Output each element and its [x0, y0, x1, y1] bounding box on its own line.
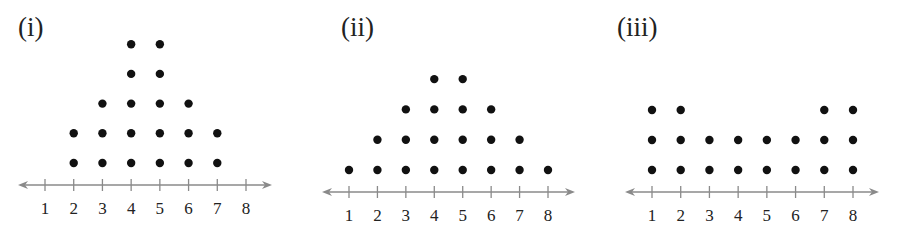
tick-label: 5: [156, 199, 165, 218]
data-dot: [98, 129, 106, 137]
tick-label: 5: [458, 206, 467, 225]
tick-label: 4: [734, 206, 743, 225]
data-dot: [791, 136, 799, 144]
data-dot: [430, 136, 438, 144]
data-dot: [430, 166, 438, 174]
tick-label: 3: [402, 206, 411, 225]
data-dot: [373, 166, 381, 174]
tick-label: 8: [849, 206, 858, 225]
data-dot: [156, 40, 164, 48]
tick-label: 8: [544, 206, 553, 225]
data-dot: [184, 159, 192, 167]
data-dot: [459, 136, 467, 144]
data-dot: [849, 166, 857, 174]
data-dot: [487, 105, 495, 113]
tick-label: 7: [515, 206, 524, 225]
data-dot: [156, 159, 164, 167]
data-dot: [487, 166, 495, 174]
data-dot: [677, 166, 685, 174]
data-dot: [430, 75, 438, 83]
data-dot: [156, 99, 164, 107]
data-dot: [677, 136, 685, 144]
data-dot: [459, 75, 467, 83]
data-dot: [849, 136, 857, 144]
data-dot: [127, 70, 135, 78]
data-dot: [820, 106, 828, 114]
tick-label: 6: [184, 199, 193, 218]
tick-label: 8: [242, 199, 251, 218]
data-dot: [459, 166, 467, 174]
data-dot: [791, 166, 799, 174]
data-dot: [213, 159, 221, 167]
data-dot: [459, 105, 467, 113]
data-dot: [373, 136, 381, 144]
data-dot: [705, 166, 713, 174]
data-dot: [705, 136, 713, 144]
data-dot: [648, 136, 656, 144]
data-dot: [402, 105, 410, 113]
data-dot: [515, 166, 523, 174]
data-dot: [734, 166, 742, 174]
tick-label: 2: [373, 206, 382, 225]
data-dot: [98, 99, 106, 107]
tick-label: 6: [487, 206, 496, 225]
data-dot: [156, 70, 164, 78]
data-dot: [184, 129, 192, 137]
tick-label: 3: [98, 199, 107, 218]
data-dot: [487, 136, 495, 144]
data-dot: [648, 166, 656, 174]
data-dot: [70, 159, 78, 167]
tick-label: 3: [705, 206, 714, 225]
data-dot: [820, 136, 828, 144]
tick-label: 6: [791, 206, 800, 225]
data-dot: [156, 129, 164, 137]
data-dot: [184, 99, 192, 107]
data-dot: [213, 129, 221, 137]
data-dot: [515, 136, 523, 144]
data-dot: [127, 129, 135, 137]
dot-plot-1: 12345678: [18, 40, 272, 218]
tick-label: 5: [763, 206, 772, 225]
tick-label: 1: [41, 199, 50, 218]
dot-plot-2: 12345678: [322, 75, 575, 225]
tick-label: 7: [820, 206, 829, 225]
data-dot: [402, 136, 410, 144]
tick-label: 4: [430, 206, 439, 225]
tick-label: 1: [648, 206, 657, 225]
data-dot: [127, 99, 135, 107]
data-dot: [820, 166, 828, 174]
data-dot: [648, 106, 656, 114]
dot-plots-canvas: 123456781234567812345678: [0, 0, 905, 239]
tick-label: 4: [127, 199, 136, 218]
tick-label: 7: [213, 199, 222, 218]
data-dot: [127, 40, 135, 48]
data-dot: [677, 106, 685, 114]
data-dot: [345, 166, 353, 174]
data-dot: [402, 166, 410, 174]
data-dot: [430, 105, 438, 113]
data-dot: [734, 136, 742, 144]
data-dot: [70, 129, 78, 137]
data-dot: [763, 166, 771, 174]
tick-label: 2: [676, 206, 685, 225]
data-dot: [98, 159, 106, 167]
data-dot: [127, 159, 135, 167]
data-dot: [544, 166, 552, 174]
dot-plot-3: 12345678: [625, 106, 879, 225]
tick-label: 2: [69, 199, 78, 218]
data-dot: [763, 136, 771, 144]
data-dot: [849, 106, 857, 114]
tick-label: 1: [345, 206, 354, 225]
